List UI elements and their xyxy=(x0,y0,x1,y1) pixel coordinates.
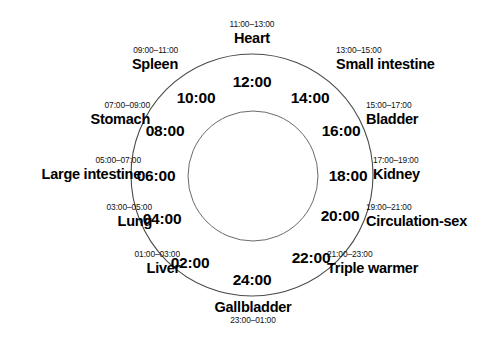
hour-label-14: 14:00 xyxy=(291,89,330,107)
organ-block-heart: 11:00–13:00 Heart xyxy=(230,19,275,46)
organ-name-triple-warmer: Triple warmer xyxy=(327,260,418,276)
organ-range-heart: 11:00–13:00 xyxy=(230,19,275,30)
organ-block-spleen: 09:00–11:00 Spleen xyxy=(132,45,178,72)
organ-block-stomach: 07:00–09:00 Stomach xyxy=(91,100,151,127)
hour-label-20: 20:00 xyxy=(321,207,360,225)
hour-label-10: 10:00 xyxy=(177,89,216,107)
organ-range-spleen: 09:00–11:00 xyxy=(132,45,178,56)
hour-label-06: 06:00 xyxy=(137,167,176,185)
organ-range-stomach: 07:00–09:00 xyxy=(91,100,151,111)
organ-name-liver: Liver xyxy=(135,260,180,276)
organ-block-small-intestine: 13:00–15:00 Small intestine xyxy=(336,45,435,72)
organ-range-small-intestine: 13:00–15:00 xyxy=(336,45,435,56)
organ-name-stomach: Stomach xyxy=(91,111,151,127)
organ-name-kidney: Kidney xyxy=(373,166,420,182)
organ-range-liver: 01:00–03:00 xyxy=(135,249,180,260)
organ-range-lung: 03:00–05:00 xyxy=(107,202,152,213)
organ-range-kidney: 17:00–19:00 xyxy=(373,155,420,166)
organ-name-gallbladder: Gallbladder xyxy=(214,299,291,315)
organ-range-triple-warmer: 21:00–23:00 xyxy=(327,249,418,260)
organ-name-spleen: Spleen xyxy=(132,56,178,72)
organ-range-bladder: 15:00–17:00 xyxy=(366,100,418,111)
hour-label-12: 12:00 xyxy=(233,73,272,91)
organ-name-lung: Lung xyxy=(107,213,152,229)
organ-block-large-intestine: 05:00–07:00 Large intestine xyxy=(42,155,141,182)
hour-label-22: 22:00 xyxy=(292,249,331,267)
organ-block-gallbladder: Gallbladder 23:00–01:00 xyxy=(214,299,291,326)
organ-block-liver: 01:00–03:00 Liver xyxy=(135,249,180,276)
organ-block-lung: 03:00–05:00 Lung xyxy=(107,202,152,229)
organ-name-large-intestine: Large intestine xyxy=(42,166,141,182)
organ-block-triple-warmer: 21:00–23:00 Triple warmer xyxy=(327,249,418,276)
organ-range-circulation-sex: 19:00–21:00 xyxy=(366,202,467,213)
organ-name-heart: Heart xyxy=(230,30,275,46)
inner-circle xyxy=(188,111,318,241)
organ-range-large-intestine: 05:00–07:00 xyxy=(42,155,141,166)
hour-label-08: 08:00 xyxy=(146,122,185,140)
organ-range-gallbladder: 23:00–01:00 xyxy=(214,315,291,326)
organ-clock-diagram: 12:00 14:00 16:00 18:00 20:00 22:00 24:0… xyxy=(0,0,498,356)
organ-name-bladder: Bladder xyxy=(366,111,418,127)
organ-name-circulation-sex: Circulation-sex xyxy=(366,213,467,229)
hour-label-24: 24:00 xyxy=(233,271,272,289)
organ-block-circulation-sex: 19:00–21:00 Circulation-sex xyxy=(366,202,467,229)
organ-name-small-intestine: Small intestine xyxy=(336,56,435,72)
organ-block-kidney: 17:00–19:00 Kidney xyxy=(373,155,420,182)
hour-label-18: 18:00 xyxy=(329,167,368,185)
hour-label-16: 16:00 xyxy=(322,122,361,140)
organ-block-bladder: 15:00–17:00 Bladder xyxy=(366,100,418,127)
